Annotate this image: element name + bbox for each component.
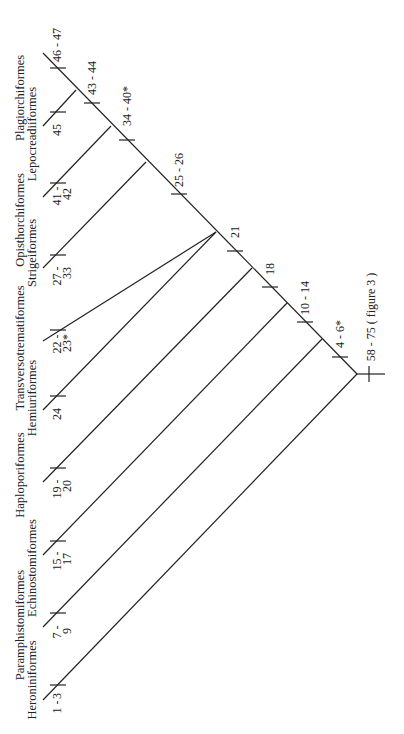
chars-hemiur: 24: [50, 408, 64, 420]
chars-opist-b: 42: [60, 188, 74, 200]
chars-heroni-b: 3: [50, 693, 64, 699]
chars-n1: 4 - 6*: [333, 320, 347, 348]
taxon-haploporiformes: Haploporiformes: [13, 432, 27, 518]
taxon-lepocreadiiformes: Lepocreadiiformes: [25, 87, 39, 182]
chars-n6: 34 - 40*: [120, 86, 134, 126]
taxon-echinostomiformes: Echinostomiformes: [25, 519, 39, 617]
chars-echino-b: 17: [60, 553, 74, 565]
branch-heroniniformes: [43, 374, 357, 700]
chars-n2: 10 - 14: [298, 281, 312, 315]
chars-transv-b: 23*: [60, 334, 74, 352]
chars-n4: 21: [228, 226, 242, 238]
chars-strige-b: 33: [60, 267, 74, 279]
branch-echinostomiformes: [43, 303, 287, 555]
cladogram: Plagiorchiformes Lepocreadiiformes Opist…: [0, 0, 404, 734]
chars-n5: 25 - 26: [172, 153, 186, 187]
chars-paramph-b: 9: [60, 628, 74, 634]
taxon-hemiuriformes: Hemiuriformes: [25, 360, 39, 437]
chars-n3: 18: [263, 263, 277, 275]
chars-root: 58 - 75 ( figure 3 ): [364, 273, 378, 362]
taxon-heroniniformes: Heroniniformes: [25, 640, 39, 719]
chars-lepo: 45: [50, 124, 64, 136]
branch-strigeiformes: [43, 162, 146, 268]
chars-n7: 43 - 44: [85, 61, 99, 95]
branch-paramphistomiformes: [43, 339, 322, 627]
chars-heroni-a: 1 -: [50, 701, 64, 714]
spine: [43, 53, 357, 374]
branch-hemiuriformes: [43, 232, 216, 410]
branch-lepocreadiiformes: [43, 90, 76, 126]
taxon-strigeiformes: Strigeiformes: [25, 219, 39, 287]
branch-transversotrematiformes: [43, 232, 216, 341]
branch-haploporiformes: [43, 268, 252, 482]
chars-plagio: 46 - 47: [50, 28, 64, 62]
chars-haplo-b: 20: [60, 480, 74, 492]
